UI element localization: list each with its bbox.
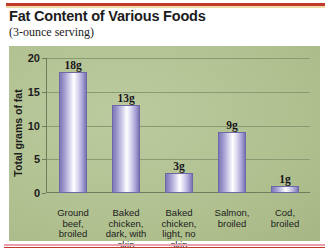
bottom-rule-pink [4, 244, 325, 246]
bar-value-4: 1g [279, 173, 291, 185]
y-tick-label-20: 20 [28, 52, 40, 64]
y-tick-label-0: 0 [34, 187, 40, 199]
y-tick-15 [42, 92, 46, 93]
bar-0[interactable] [59, 72, 87, 194]
page-title: Fat Content of Various Foods [9, 8, 323, 24]
x-tick-label-3: Salmon, broiled [204, 208, 260, 229]
y-axis-line [46, 58, 47, 193]
page-subtitle: (3-ounce serving) [9, 25, 323, 39]
bar-value-2: 3g [173, 160, 185, 172]
x-tick-label-0: Ground beef, broiled [45, 208, 101, 240]
y-tick-label-5: 5 [34, 153, 40, 165]
y-tick-label-15: 15 [28, 86, 40, 98]
bar-4[interactable] [271, 186, 299, 193]
y-tick-20 [42, 58, 46, 59]
y-tick-10 [42, 126, 46, 127]
y-axis-title: Total grams of fat [11, 72, 25, 194]
bar-slot-0[interactable]: 18g [59, 72, 87, 194]
bar-slot-3[interactable]: 9g [218, 132, 246, 193]
bar-slot-4[interactable]: 1g [271, 186, 299, 193]
bar-3[interactable] [218, 132, 246, 193]
y-axis-title-text: Total grams of fat [12, 89, 24, 176]
x-tick-label-4: Cod, broiled [257, 208, 313, 229]
heading-block: Fat Content of Various Foods (3-ounce se… [9, 8, 323, 39]
plot-area: 20 15 10 5 0 18g 13g 3g 9g [46, 58, 310, 193]
chart-panel: Total grams of fat 20 15 10 5 0 18g [9, 46, 320, 241]
y-tick-5 [42, 159, 46, 160]
bar-value-1: 13g [117, 92, 134, 104]
bottom-rule-red [4, 247, 325, 248]
bar-slot-1[interactable]: 13g [112, 105, 140, 193]
y-tick-0 [42, 193, 46, 194]
gridline-20 [46, 58, 310, 59]
bar-value-3: 9g [226, 119, 238, 131]
bar-1[interactable] [112, 105, 140, 193]
bar-2[interactable] [165, 173, 193, 193]
figure-container: Fat Content of Various Foods (3-ounce se… [0, 0, 329, 251]
bar-slot-2[interactable]: 3g [165, 173, 193, 193]
bar-value-0: 18g [64, 59, 81, 71]
y-tick-label-10: 10 [28, 120, 40, 132]
